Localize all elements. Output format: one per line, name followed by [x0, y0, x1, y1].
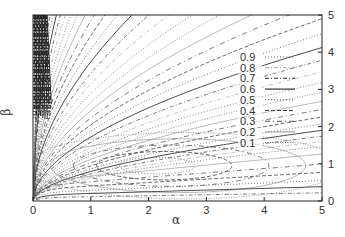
- contour-line: [33, 101, 322, 200]
- plot-frame: [33, 15, 322, 201]
- y-tick-label: 3: [328, 83, 334, 95]
- legend: 0.90.80.70.60.50.40.30.20.1: [238, 51, 295, 149]
- y-axis-right: 012345: [318, 9, 334, 207]
- contour-line: [33, 0, 198, 199]
- x-tick-label: 3: [203, 204, 209, 216]
- legend-label: 0.1: [240, 137, 255, 149]
- contour-line: [33, 0, 256, 199]
- contour-line: [50, 139, 306, 193]
- y-axis-label: β: [0, 108, 13, 115]
- contour-line: [97, 151, 232, 179]
- x-tick-label: 4: [261, 204, 267, 216]
- contour-line: [33, 0, 224, 199]
- contour-chart: 012345 012345 α β 0.90.80.70.60.50.40.30…: [0, 0, 345, 237]
- x-tick-label: 1: [88, 204, 94, 216]
- contour-line: [36, 181, 322, 198]
- x-tick-label: 5: [319, 204, 325, 216]
- y-tick-label: 5: [328, 9, 334, 21]
- y-tick-label: 2: [328, 121, 334, 133]
- y-tick-label: 4: [328, 46, 334, 58]
- x-tick-label: 0: [30, 204, 36, 216]
- contour-line: [33, 19, 322, 200]
- contour-line: [120, 157, 195, 174]
- y-tick-label: 0: [328, 195, 334, 207]
- y-tick-label: 1: [328, 158, 334, 170]
- x-axis-label: α: [172, 213, 180, 227]
- contour-lines: [27, 0, 343, 201]
- x-tick-label: 2: [146, 204, 152, 216]
